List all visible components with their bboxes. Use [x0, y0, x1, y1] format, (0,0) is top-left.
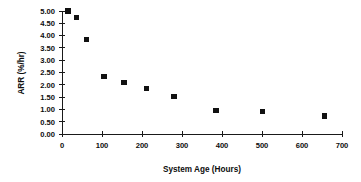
x-tick-label: 300 [176, 141, 189, 150]
x-tick-label: 400 [216, 141, 229, 150]
data-point [322, 113, 327, 118]
data-point [144, 86, 149, 91]
y-tick-label: 4.50 [40, 19, 55, 28]
data-point [171, 94, 176, 99]
y-tick-group: 0.000.501.001.502.002.503.003.504.004.50… [40, 7, 65, 139]
x-tick-label: 100 [96, 141, 109, 150]
data-point [260, 109, 265, 114]
data-point [213, 108, 218, 113]
y-axis-title: ARR (%/hr) [17, 51, 26, 94]
data-point [101, 74, 106, 79]
x-tick-label: 500 [256, 141, 269, 150]
y-tick-label: 4.00 [40, 31, 55, 40]
y-tick-label: 1.50 [40, 93, 55, 102]
y-axis: 0.000.501.001.502.002.503.003.504.004.50… [40, 7, 65, 139]
data-point [84, 37, 89, 42]
y-tick-label: 3.50 [40, 44, 55, 53]
x-tick-label: 700 [336, 141, 349, 150]
x-tick-label: 0 [60, 141, 64, 150]
y-tick-label: 0.00 [40, 130, 55, 139]
plot-area: 0.000.501.001.502.002.503.003.504.004.50… [0, 0, 361, 182]
scatter-chart: 0.000.501.001.502.002.503.003.504.004.50… [0, 0, 361, 182]
data-point [74, 15, 79, 20]
y-tick-label: 2.00 [40, 81, 55, 90]
data-point-group [65, 8, 327, 118]
y-tick-label: 0.50 [40, 118, 55, 127]
x-tick-label: 600 [296, 141, 309, 150]
y-tick-label: 3.00 [40, 56, 55, 65]
data-point [121, 80, 126, 85]
y-tick-label: 5.00 [40, 7, 55, 16]
data-point [65, 8, 70, 13]
y-tick-label: 2.50 [40, 68, 55, 77]
x-tick-label: 200 [136, 141, 149, 150]
x-axis: 0100200300400500600700 [60, 131, 348, 150]
x-axis-title: System Age (Hours) [163, 165, 241, 174]
y-tick-label: 1.00 [40, 105, 55, 114]
